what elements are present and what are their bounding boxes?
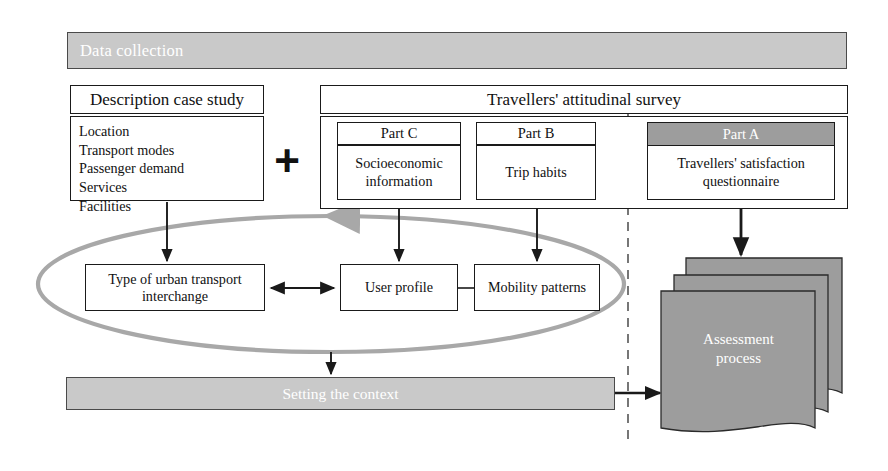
travellers-attitudinal-survey-title-label: Travellers' attitudinal survey xyxy=(487,90,681,110)
survey-part-a-header-label: Part A xyxy=(723,126,760,143)
assessment-document-back xyxy=(686,258,842,397)
survey-part-a-header: Part A xyxy=(648,123,834,146)
description-case-study-title: Description case study xyxy=(70,85,264,114)
list-item: Facilities xyxy=(79,197,184,216)
survey-part-c-header: Part C xyxy=(338,123,460,146)
setting-the-context-label: Setting the context xyxy=(282,385,398,403)
assessment-process-label-line2: process xyxy=(662,349,815,368)
travellers-attitudinal-survey-title: Travellers' attitudinal survey xyxy=(320,85,848,114)
description-case-study-title-label: Description case study xyxy=(90,90,244,110)
list-item: Passenger demand xyxy=(79,159,184,178)
list-item: Location xyxy=(79,122,184,141)
survey-part-b-header-label: Part B xyxy=(518,125,555,142)
data-collection-label: Data collection xyxy=(80,41,183,61)
assessment-process-label: Assessment process xyxy=(662,330,815,368)
survey-part-c-body: Socioeconomic information xyxy=(338,146,460,199)
survey-part-a: Part A Travellers' satisfaction question… xyxy=(647,122,835,200)
node-mobility-patterns-label: Mobility patterns xyxy=(488,279,586,295)
description-item-list: Location Transport modes Passenger deman… xyxy=(79,122,184,216)
plus-icon: + xyxy=(272,147,302,177)
assessment-process-label-line1: Assessment xyxy=(662,330,815,349)
survey-part-c: Part C Socioeconomic information xyxy=(337,122,461,200)
survey-part-c-body-label: Socioeconomic information xyxy=(338,155,460,189)
plus-symbol: + xyxy=(274,136,300,185)
assessment-document-middle xyxy=(674,275,828,416)
survey-part-a-body: Travellers' satisfaction questionnaire xyxy=(648,146,834,199)
survey-part-b-header: Part B xyxy=(477,123,595,146)
node-type-of-urban-transport-interchange-label: Type of urban transport interchange xyxy=(86,271,264,304)
survey-part-b-body-label: Trip habits xyxy=(505,164,566,181)
node-user-profile: User profile xyxy=(340,264,458,311)
assessment-document-stack xyxy=(661,258,842,432)
assessment-document-front xyxy=(661,291,815,432)
survey-part-a-body-label: Travellers' satisfaction questionnaire xyxy=(648,155,834,189)
node-mobility-patterns: Mobility patterns xyxy=(474,264,600,311)
setting-the-context-band: Setting the context xyxy=(66,377,615,410)
data-collection-band: Data collection xyxy=(67,32,847,69)
node-type-of-urban-transport-interchange: Type of urban transport interchange xyxy=(85,264,265,311)
survey-part-b: Part B Trip habits xyxy=(476,122,596,200)
list-item: Transport modes xyxy=(79,141,184,160)
node-user-profile-label: User profile xyxy=(365,279,433,295)
list-item: Services xyxy=(79,178,184,197)
survey-part-b-body: Trip habits xyxy=(477,146,595,199)
diagram-canvas: Data collection Description case study L… xyxy=(0,0,888,471)
survey-part-c-header-label: Part C xyxy=(381,125,418,142)
description-case-study-body: Location Transport modes Passenger deman… xyxy=(70,116,264,201)
